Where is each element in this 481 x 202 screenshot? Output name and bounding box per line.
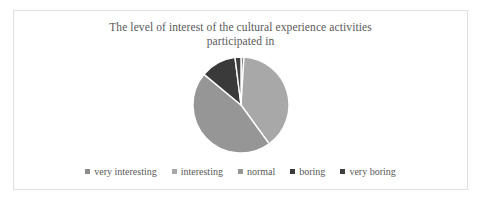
legend-swatch-icon	[290, 169, 295, 174]
pie-slice-group	[192, 57, 288, 153]
legend-item-boring[interactable]: boring	[290, 166, 325, 177]
legend-label: very boring	[349, 166, 395, 177]
chart-title: The level of interest of the cultural ex…	[14, 20, 467, 48]
legend-label: normal	[247, 166, 275, 177]
legend-item-very-interesting[interactable]: very interesting	[85, 166, 156, 177]
legend-swatch-icon	[172, 169, 177, 174]
chart-legend: very interestinginterestingnormalboringv…	[14, 166, 467, 177]
legend-swatch-icon	[340, 169, 345, 174]
legend-label: very interesting	[94, 166, 156, 177]
legend-swatch-icon	[85, 169, 90, 174]
pie-chart	[191, 55, 291, 155]
chart-title-line-2: participated in	[14, 34, 467, 48]
chart-frame: The level of interest of the cultural ex…	[13, 10, 468, 190]
legend-item-interesting[interactable]: interesting	[172, 166, 223, 177]
plot-area	[14, 55, 467, 155]
legend-item-normal[interactable]: normal	[238, 166, 275, 177]
legend-label: interesting	[181, 166, 223, 177]
legend-swatch-icon	[238, 169, 243, 174]
chart-title-line-1: The level of interest of the cultural ex…	[14, 20, 467, 34]
legend-label: boring	[299, 166, 325, 177]
legend-item-very-boring[interactable]: very boring	[340, 166, 395, 177]
